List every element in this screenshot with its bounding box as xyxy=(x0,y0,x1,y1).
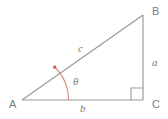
angle-label-theta: θ xyxy=(73,76,78,87)
angle-theta-tick xyxy=(53,66,56,69)
vertex-label-c: C xyxy=(152,99,160,110)
right-triangle-diagram: A B C a b c θ xyxy=(0,0,168,119)
side-label-c: c xyxy=(78,43,83,54)
vertex-label-b: B xyxy=(152,6,159,17)
side-c-line xyxy=(22,15,143,100)
side-label-a: a xyxy=(152,57,158,68)
side-label-b: b xyxy=(80,103,86,114)
right-angle-marker xyxy=(131,88,143,100)
vertex-label-a: A xyxy=(9,99,16,110)
